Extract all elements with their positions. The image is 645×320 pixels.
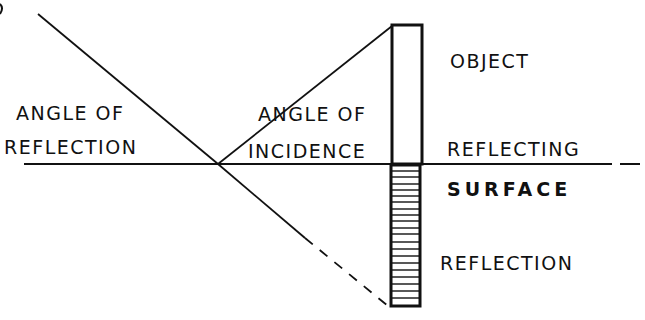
label-reflecting-surface-line2: SURFACE (447, 180, 571, 199)
label-angle-of-reflection-line2: REFLECTION (4, 138, 137, 157)
label-reflecting-surface-line1: REFLECTING (447, 140, 580, 159)
virtual-ray-solid (218, 164, 305, 238)
object-box (392, 25, 422, 164)
label-angle-of-incidence-line2: INCIDENCE (248, 142, 366, 161)
label-angle-of-reflection-line1: ANGLE OF (16, 104, 124, 123)
cropped-glyph (0, 4, 2, 14)
reflection-box (391, 165, 420, 306)
label-angle-of-incidence-line1: ANGLE OF (258, 105, 366, 124)
label-reflection: REFLECTION (440, 254, 573, 273)
reflection-hatching (392, 171, 419, 298)
label-object: OBJECT (450, 52, 529, 71)
virtual-ray-dashed (305, 238, 388, 306)
